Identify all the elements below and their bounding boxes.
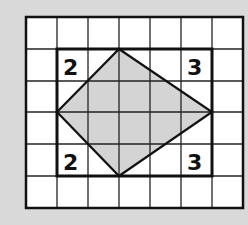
label-top-right: 3 bbox=[187, 55, 202, 80]
label-bottom-right: 3 bbox=[187, 150, 202, 175]
label-bottom-left: 2 bbox=[63, 150, 78, 175]
grid-diagram: 2 3 2 3 bbox=[0, 0, 248, 225]
label-top-left: 2 bbox=[63, 55, 78, 80]
